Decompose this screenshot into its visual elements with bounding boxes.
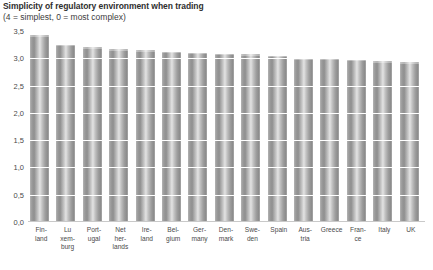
bar-highlight [373, 61, 392, 63]
x-axis-label: Luxem-burg [54, 226, 80, 252]
y-axis-tick-label: 0,0 [14, 218, 24, 227]
x-axis-label: Greece [318, 226, 344, 235]
x-axis-label-line: Fran- [345, 226, 371, 235]
bar-highlight [56, 45, 75, 47]
x-axis-label: Swe-den [239, 226, 265, 243]
y-axis-tick-label: 3,0 [14, 54, 24, 63]
x-axis-label-line: Lu [54, 226, 80, 235]
x-axis-label: Aus-tria [292, 226, 318, 243]
bar[interactable] [109, 49, 128, 222]
bar[interactable] [400, 62, 419, 222]
bar-highlight [109, 49, 128, 51]
bar[interactable] [83, 47, 102, 222]
bar-series [28, 31, 425, 222]
bar-highlight [241, 54, 260, 56]
x-axis-label-line: Aus- [292, 226, 318, 235]
x-axis-label-line: Net [107, 226, 133, 235]
x-axis-label: Nether-lands [107, 226, 133, 252]
bar-highlight [162, 52, 181, 54]
x-axis-label-line: Spain [266, 226, 292, 235]
y-axis-tick-label: 3,5 [14, 27, 24, 36]
bar-highlight [268, 56, 287, 58]
bar[interactable] [136, 50, 155, 222]
x-axis-label: Den-mark [213, 226, 239, 243]
x-axis-label: Italy [371, 226, 397, 235]
x-axis-label-line: ce [345, 235, 371, 244]
y-axis-tick-label: 1,5 [14, 136, 24, 145]
x-axis-labels: Fin-landLuxem-burgPort-ugalNether-landsI… [28, 226, 425, 270]
bar[interactable] [30, 35, 49, 222]
y-axis-tick-label: 2,0 [14, 108, 24, 117]
bar[interactable] [215, 54, 234, 222]
x-axis-label-line: xem- [54, 235, 80, 244]
x-axis-label: Fran-ce [345, 226, 371, 243]
x-axis-label: Ger-many [186, 226, 212, 243]
x-axis-label-line: gium [160, 235, 186, 244]
x-axis-label-line: Greece [318, 226, 344, 235]
x-axis-label-line: land [28, 235, 54, 244]
x-axis-label: Ire-land [134, 226, 160, 243]
bar-highlight [347, 60, 366, 62]
bar-highlight [30, 35, 49, 37]
bar[interactable] [294, 58, 313, 222]
x-axis-label: Port-ugal [81, 226, 107, 243]
x-axis-label: Spain [266, 226, 292, 235]
y-axis: 3,53,02,52,01,51,00,50,0 [0, 31, 28, 222]
bar-highlight [400, 62, 419, 64]
y-axis-tick-label: 0,5 [14, 190, 24, 199]
plot-area [28, 31, 425, 222]
bar-chart: Simplicity of regulatory environment whe… [0, 0, 433, 270]
bar-highlight [215, 54, 234, 56]
x-axis-label-line: lands [107, 243, 133, 252]
chart-title: Simplicity of regulatory environment whe… [3, 1, 204, 11]
bar-highlight [83, 47, 102, 49]
x-axis-label-line: ugal [81, 235, 107, 244]
x-axis-label-line: Port- [81, 226, 107, 235]
bar[interactable] [241, 54, 260, 222]
x-axis-label-line: land [134, 235, 160, 244]
x-axis-label-line: den [239, 235, 265, 244]
bar-highlight [320, 58, 339, 60]
y-axis-tick-label: 2,5 [14, 81, 24, 90]
x-axis-label: Bel-gium [160, 226, 186, 243]
x-axis-label-line: burg [54, 243, 80, 252]
x-axis-label-line: Fin- [28, 226, 54, 235]
x-axis-label-line: Swe- [239, 226, 265, 235]
x-axis-label-line: mark [213, 235, 239, 244]
x-axis-label-line: tria [292, 235, 318, 244]
bar[interactable] [56, 45, 75, 222]
x-axis-label: Fin-land [28, 226, 54, 243]
bar[interactable] [347, 60, 366, 222]
x-axis-label-line: Den- [213, 226, 239, 235]
bar[interactable] [188, 53, 207, 222]
bar[interactable] [268, 56, 287, 222]
x-axis-label-line: Ger- [186, 226, 212, 235]
bar-highlight [188, 53, 207, 55]
y-axis-tick-label: 1,0 [14, 163, 24, 172]
x-axis-label-line: Ire- [134, 226, 160, 235]
x-axis-label-line: UK [398, 226, 424, 235]
x-axis-label-line: many [186, 235, 212, 244]
x-axis-label-line: Bel- [160, 226, 186, 235]
x-axis-label-line: Italy [371, 226, 397, 235]
bar[interactable] [320, 58, 339, 222]
x-axis-label-line: her- [107, 235, 133, 244]
bar[interactable] [373, 61, 392, 222]
bar[interactable] [162, 52, 181, 222]
axis-baseline [28, 221, 425, 222]
bar-highlight [136, 50, 155, 52]
bar-highlight [294, 58, 313, 60]
x-axis-label: UK [398, 226, 424, 235]
chart-subtitle: (4 = simplest, 0 = most complex) [3, 12, 126, 22]
